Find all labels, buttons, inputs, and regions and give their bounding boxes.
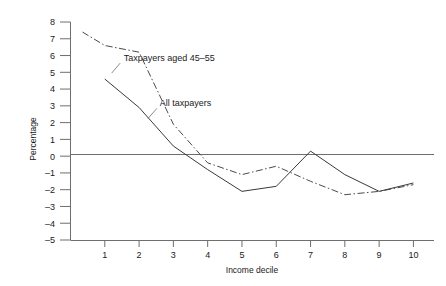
- x-tick-label: 7: [308, 250, 313, 260]
- y-tick-label: 1: [50, 135, 55, 145]
- x-tick-label: 9: [377, 250, 382, 260]
- y-tick-label: –5: [45, 235, 55, 245]
- y-tick-label: 2: [50, 118, 55, 128]
- y-tick-label: –1: [45, 168, 55, 178]
- y-tick-label: 8: [50, 17, 55, 27]
- y-tick-label: 7: [50, 34, 55, 44]
- x-tick-label: 2: [137, 250, 142, 260]
- income-decile-percentage-line-chart: Percentage Income decile 876543210–1–2–3…: [0, 0, 446, 286]
- x-tick-label: 4: [205, 250, 210, 260]
- x-tick-label: 5: [239, 250, 244, 260]
- y-tick-label: –2: [45, 185, 55, 195]
- y-axis-title: Percentage: [28, 117, 38, 161]
- x-tick-label: 8: [342, 250, 347, 260]
- annotation-label-2: All taxpayers: [160, 98, 212, 108]
- y-tick-label: 0: [50, 152, 55, 162]
- x-tick-label: 1: [102, 250, 107, 260]
- y-tick-label: 5: [50, 68, 55, 78]
- x-tick-label: 3: [171, 250, 176, 260]
- y-tick-label: 6: [50, 51, 55, 61]
- x-tick-label: 6: [274, 250, 279, 260]
- y-tick-label: 4: [50, 84, 55, 94]
- y-tick-label: –4: [45, 219, 55, 229]
- x-axis-title: Income decile: [226, 265, 279, 275]
- y-tick-label: 3: [50, 101, 55, 111]
- chart-container: Percentage Income decile 876543210–1–2–3…: [0, 0, 446, 286]
- annotation-label-1: Taxpayers aged 45–55: [124, 53, 215, 63]
- y-tick-label: –3: [45, 202, 55, 212]
- x-tick-label: 10: [408, 250, 418, 260]
